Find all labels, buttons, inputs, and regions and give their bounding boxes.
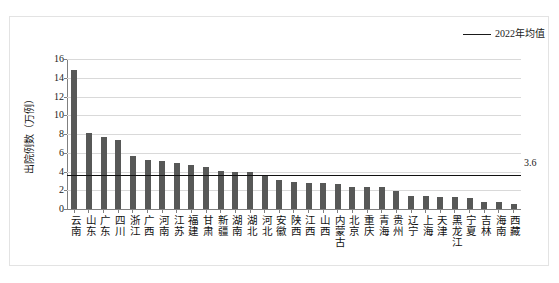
bar-slot: [462, 59, 477, 209]
bar-重庆: [364, 187, 370, 210]
bar-slot: [360, 59, 375, 209]
x-tick-mark-安徽: [279, 209, 280, 213]
chart-figure: 2022年均值 出院例数（万例） 0246810121416 3.6 云南山东广…: [0, 0, 559, 283]
x-label-slot: 江苏: [169, 215, 184, 267]
x-tick-label-江西: 江西: [303, 215, 314, 267]
x-tick-label-云南: 云南: [69, 215, 80, 267]
x-tick-label-湖北: 湖北: [245, 215, 256, 267]
x-tick-slot: [67, 209, 82, 213]
bar-内蒙古: [335, 184, 341, 209]
x-tick-slot: [331, 209, 346, 213]
x-label-slot: 陕西: [287, 215, 302, 267]
y-tick-label-12: 12: [54, 92, 64, 102]
x-label-slot: 海南: [492, 215, 507, 267]
bar-新疆: [218, 171, 224, 209]
x-label-slot: 吉林: [477, 215, 492, 267]
x-tick-label-上海: 上海: [420, 215, 431, 267]
x-label-slot: 甘肃: [199, 215, 214, 267]
y-tick-mark-16: [64, 59, 67, 60]
y-tick-label-10: 10: [54, 110, 64, 120]
x-tick-mark-山东: [88, 209, 89, 213]
x-tick-mark-浙江: [132, 209, 133, 213]
bar-江苏: [174, 163, 180, 209]
x-tick-mark-河南: [162, 209, 163, 213]
bar-slot: [126, 59, 141, 209]
bar-slot: [96, 59, 111, 209]
y-tick-mark-8: [64, 134, 67, 135]
x-label-slot: 贵州: [389, 215, 404, 267]
x-axis-tick-marks: [67, 209, 521, 213]
x-tick-mark-北京: [352, 209, 353, 213]
bar-甘肃: [203, 167, 209, 209]
x-label-slot: 新疆: [213, 215, 228, 267]
x-tick-label-广西: 广西: [142, 215, 153, 267]
x-tick-slot: [140, 209, 155, 213]
bar-云南: [71, 70, 77, 209]
x-tick-slot: [184, 209, 199, 213]
y-tick-mark-2: [64, 190, 67, 191]
bar-黑龙江: [452, 197, 458, 209]
bar-slot: [374, 59, 389, 209]
x-tick-mark-河北: [264, 209, 265, 213]
x-label-slot: 黑龙江: [448, 215, 463, 267]
x-label-slot: 北京: [345, 215, 360, 267]
x-tick-mark-海南: [498, 209, 499, 213]
x-label-slot: 天津: [433, 215, 448, 267]
x-label-slot: 河南: [155, 215, 170, 267]
x-tick-slot: [82, 209, 97, 213]
x-label-slot: 福建: [184, 215, 199, 267]
x-tick-slot: [213, 209, 228, 213]
bar-天津: [437, 197, 443, 209]
bar-北京: [349, 187, 355, 210]
x-tick-mark-宁夏: [469, 209, 470, 213]
x-tick-label-西藏: 西藏: [508, 215, 519, 267]
bar-slot: [184, 59, 199, 209]
x-tick-slot: [96, 209, 111, 213]
chart-legend: 2022年均值: [463, 27, 545, 41]
x-tick-mark-湖北: [250, 209, 251, 213]
x-tick-slot: [199, 209, 214, 213]
x-tick-slot: [111, 209, 126, 213]
bar-slot: [169, 59, 184, 209]
x-tick-mark-江西: [308, 209, 309, 213]
x-tick-label-四川: 四川: [113, 215, 124, 267]
x-tick-mark-江苏: [176, 209, 177, 213]
x-tick-slot: [418, 209, 433, 213]
x-label-slot: 辽宁: [404, 215, 419, 267]
y-axis-tick-labels: 0246810121416: [44, 52, 64, 216]
x-tick-label-贵州: 贵州: [391, 215, 402, 267]
bar-slot: [257, 59, 272, 209]
bar-山东: [86, 133, 92, 209]
x-tick-mark-广西: [147, 209, 148, 213]
bar-河北: [262, 176, 268, 209]
x-tick-label-安徽: 安徽: [274, 215, 285, 267]
x-tick-slot: [243, 209, 258, 213]
bar-湖南: [232, 172, 238, 209]
bar-slot: [155, 59, 170, 209]
bar-slot: [82, 59, 97, 209]
bar-slot: [199, 59, 214, 209]
bar-slot: [492, 59, 507, 209]
x-tick-label-内蒙古: 内蒙古: [333, 215, 344, 267]
x-tick-mark-黑龙江: [454, 209, 455, 213]
x-tick-mark-内蒙古: [337, 209, 338, 213]
x-tick-label-山西: 山西: [318, 215, 329, 267]
bar-辽宁: [408, 196, 414, 209]
bar-slot: [418, 59, 433, 209]
x-tick-mark-云南: [74, 209, 75, 213]
bar-slot: [404, 59, 419, 209]
bar-slot: [448, 59, 463, 209]
x-tick-label-甘肃: 甘肃: [201, 215, 212, 267]
x-tick-label-北京: 北京: [347, 215, 358, 267]
x-label-slot: 湖北: [243, 215, 258, 267]
bar-slot: [287, 59, 302, 209]
x-label-slot: 山西: [316, 215, 331, 267]
y-tick-mark-12: [64, 97, 67, 98]
bar-上海: [423, 196, 429, 209]
x-tick-slot: [126, 209, 141, 213]
x-tick-mark-青海: [381, 209, 382, 213]
x-tick-mark-甘肃: [206, 209, 207, 213]
bar-slot: [477, 59, 492, 209]
x-label-slot: 四川: [111, 215, 126, 267]
x-tick-mark-吉林: [484, 209, 485, 213]
